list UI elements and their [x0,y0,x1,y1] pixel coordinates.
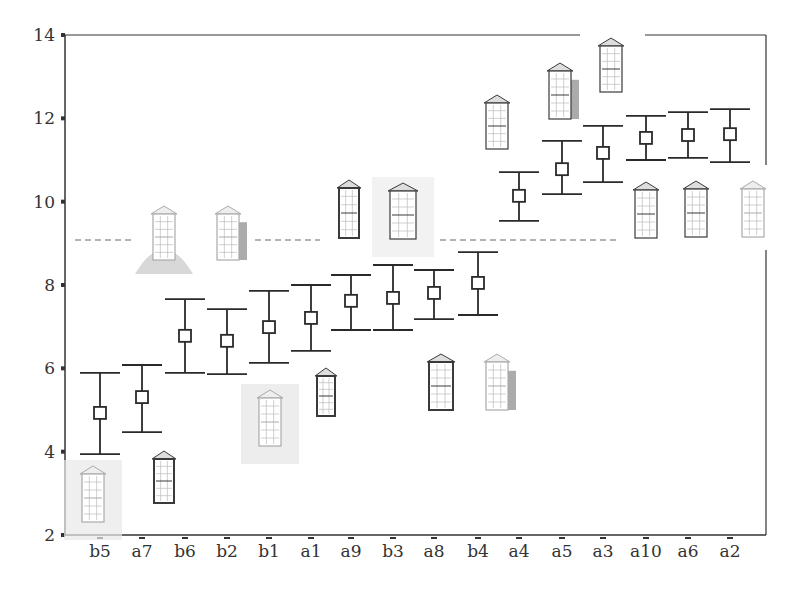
x-tick-label: b3 [382,541,404,561]
mean-marker-square [305,312,317,324]
x-tick [224,537,230,539]
x-tick [390,537,396,539]
window-thumbnail-icon [337,180,361,238]
pediment [152,451,176,459]
window-thumbnail-icon [484,95,510,149]
x-tick-label: a5 [552,541,573,561]
y-tick-label: 4 [44,442,55,462]
window-thumbnail-icon [215,206,247,260]
error-bar-b2 [207,309,247,374]
mean-marker-square [136,391,148,403]
window-thumbnail-icon [241,384,299,464]
x-tick [685,537,691,539]
mean-marker-square [472,277,484,289]
error-bar-chart: 2468101214 b5a7b6b2b1a1a9b3a8b4a4a5a3a10… [0,0,796,591]
mean-marker-square [428,287,440,299]
x-tick [139,537,145,539]
mean-marker-square [724,128,736,140]
error-bar-a10 [626,116,666,160]
error-bars [80,109,750,454]
pediment [337,180,361,188]
error-bar-b6 [165,299,205,373]
x-axis: b5a7b6b2b1a1a9b3a8b4a4a5a3a10a6a2 [89,537,740,561]
x-tick [308,537,314,539]
mean-marker-square [94,407,106,419]
window-thumbnail-icon [484,354,516,410]
window-thumbnail-icon [152,451,176,503]
mean-marker-square [682,129,694,141]
error-bar-a8 [414,270,454,319]
y-tick-label: 2 [44,525,55,545]
window-thumbnail-icon [683,181,709,237]
error-bar-a2 [710,109,750,162]
x-tick-label: b6 [174,541,196,561]
x-tick-label: a7 [132,541,153,561]
x-tick-label: b1 [258,541,280,561]
x-tick-label: a3 [593,541,614,561]
error-bar-b3 [373,265,413,330]
y-tick-label: 14 [33,25,55,45]
mean-marker-square [263,321,275,333]
pediment [151,206,177,214]
error-bar-a1 [291,285,331,351]
error-bar-b1 [249,291,289,363]
x-tick [182,537,188,539]
x-tick [516,537,522,539]
window-thumbnail-icon [598,38,624,92]
x-tick-label: b4 [467,541,489,561]
pediment [740,181,766,189]
x-tick-label: a4 [509,541,530,561]
x-tick [266,537,272,539]
x-tick [348,537,354,539]
window-thumbnails [64,38,766,540]
window-thumbnail-icon [633,182,659,238]
y-tick [61,116,65,120]
window-thumbnail-icon [427,354,455,410]
mean-marker-square [513,190,525,202]
pediment [484,95,510,103]
y-tick-label: 6 [44,358,55,378]
y-tick-label: 10 [33,192,55,212]
x-tick [559,537,565,539]
x-tick-label: a8 [424,541,445,561]
pediment [547,63,573,71]
error-bar-a7 [122,365,162,432]
window-thumbnail-icon [64,460,122,540]
pediment [633,182,659,190]
window-thumbnail-icon [740,181,766,237]
mean-marker-square [640,132,652,144]
error-bar-a5 [542,141,582,194]
mean-marker-square [221,335,233,347]
y-tick [61,33,65,37]
mean-marker-square [387,292,399,304]
x-tick-label: a9 [341,541,362,561]
error-bar-a9 [331,275,371,330]
mean-marker-square [345,295,357,307]
x-tick-label: a6 [678,541,699,561]
error-bar-b4 [458,252,498,315]
window-thumbnail-icon [547,63,579,119]
error-bar-a4 [499,172,539,221]
pediment [683,181,709,189]
x-tick-label: a10 [630,541,662,561]
mean-marker-square [597,147,609,159]
pediment [598,38,624,46]
x-tick-label: a2 [720,541,741,561]
y-axis: 2468101214 [33,25,65,545]
window-thumbnail-icon [315,368,337,416]
pediment [315,368,337,376]
window-thumbnail-icon [135,206,193,274]
mean-marker-square [179,330,191,342]
y-tick [61,366,65,370]
x-tick [431,537,437,539]
pediment [484,354,510,362]
pediment [427,354,455,362]
error-bar-b5 [80,373,120,454]
x-tick-label: b2 [216,541,238,561]
x-tick [643,537,649,539]
x-tick [475,537,481,539]
y-tick [61,200,65,204]
mean-marker-square [556,163,568,175]
error-bar-a3 [583,126,623,182]
x-tick-label: a1 [301,541,322,561]
